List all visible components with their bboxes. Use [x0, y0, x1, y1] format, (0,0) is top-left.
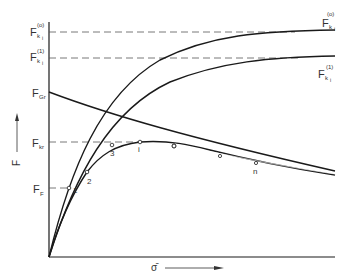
svg-text:k: k — [325, 75, 329, 81]
svg-text:(o): (o) — [37, 22, 44, 28]
point-mid — [172, 144, 176, 148]
svg-text:F: F — [322, 17, 329, 29]
point-n — [254, 161, 257, 164]
point-2 — [85, 170, 89, 174]
label-fk0: F k i (o) — [30, 22, 44, 41]
x-axis-arrow-icon — [214, 266, 224, 270]
svg-text:F: F — [32, 137, 39, 149]
curve-fgr — [49, 92, 335, 171]
point-label-2: 2 — [87, 177, 92, 186]
label-fgr: F Gr — [32, 87, 46, 100]
curve-fk1 — [49, 56, 335, 257]
svg-text:i: i — [42, 35, 43, 41]
label-ff: F F — [33, 183, 44, 197]
label-curve-fk1: F k i (1) — [318, 64, 333, 83]
point-label-3: 3 — [110, 149, 115, 158]
svg-text:k: k — [329, 24, 333, 30]
x-axis-label: σ̄ — [151, 262, 159, 273]
svg-text:kr: kr — [39, 144, 44, 150]
point-label-n: n — [253, 167, 257, 176]
svg-text:k: k — [37, 58, 41, 64]
svg-text:(1): (1) — [326, 64, 333, 70]
svg-text:(o): (o) — [327, 11, 334, 17]
svg-text:F: F — [30, 26, 37, 38]
svg-text:F: F — [33, 183, 40, 195]
y-axis-arrow-icon — [15, 113, 19, 121]
svg-text:(1): (1) — [37, 48, 44, 54]
diagram-canvas: 1 2 3 i n F k i (o) F k i (1) F Gr F kr … — [0, 0, 347, 279]
svg-text:F: F — [30, 51, 37, 63]
y-axis-label: F — [11, 160, 22, 166]
point-mid2 — [218, 154, 221, 157]
svg-text:F: F — [32, 87, 39, 99]
svg-text:Gr: Gr — [39, 94, 46, 100]
svg-text:F: F — [40, 191, 44, 197]
svg-text:i: i — [42, 60, 43, 66]
point-3 — [110, 143, 114, 147]
point-1 — [67, 186, 71, 190]
label-fk1: F k i (1) — [30, 48, 44, 66]
label-fkr: F kr — [32, 137, 44, 150]
curve-hump — [49, 142, 335, 257]
svg-text:i: i — [330, 77, 331, 83]
point-label-1: 1 — [73, 186, 78, 195]
point-i — [138, 140, 142, 144]
svg-text:i: i — [334, 26, 335, 32]
label-curve-fk0: F k i (o) — [322, 11, 335, 32]
svg-text:F: F — [318, 68, 325, 80]
curve-fk0 — [49, 30, 335, 257]
point-label-i: i — [138, 145, 140, 154]
svg-text:k: k — [37, 33, 41, 39]
